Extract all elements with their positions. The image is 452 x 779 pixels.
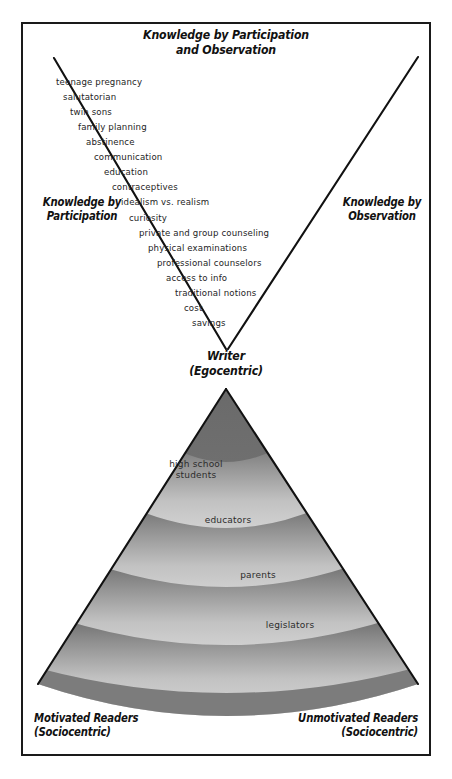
- audience-band-label-line1: parents: [240, 570, 276, 580]
- audience-band-label: educators: [182, 515, 274, 526]
- concept-list: teenage pregnancysalutatoriantwin sonsfa…: [0, 78, 452, 308]
- figure-canvas: Knowledge by Participation and Observati…: [0, 0, 452, 779]
- concept-item: education: [104, 168, 148, 177]
- label-writer-egocentric: Writer (Egocentric): [173, 349, 279, 379]
- concept-item: teenage pregnancy: [56, 78, 142, 87]
- audience-band-label: legislators: [244, 620, 336, 631]
- concept-item: curiosity: [129, 214, 167, 223]
- label-unmotivated-line1: Unmotivated Readers: [298, 711, 418, 725]
- label-writer-line2: (Egocentric): [173, 364, 279, 379]
- concept-item: access to info: [166, 274, 227, 283]
- concept-item: savings: [192, 319, 226, 328]
- concept-item: communication: [94, 153, 162, 162]
- label-unmotivated-readers: Unmotivated Readers (Sociocentric): [267, 712, 418, 739]
- figure-title-line1: Knowledge by Participation: [143, 27, 309, 42]
- concept-item: cost: [184, 304, 202, 313]
- audience-band-label-line2: students: [150, 470, 242, 481]
- label-motivated-line1: Motivated Readers: [34, 711, 138, 725]
- label-motivated-readers: Motivated Readers (Sociocentric): [34, 712, 192, 739]
- audience-band-label: parents: [212, 570, 304, 581]
- figure-title-line2: and Observation: [27, 43, 425, 58]
- concept-item: private and group counseling: [139, 229, 269, 238]
- label-writer-line1: Writer: [207, 348, 245, 363]
- concept-item: contraceptives: [112, 183, 178, 192]
- label-unmotivated-line2: (Sociocentric): [267, 726, 418, 740]
- figure-title: Knowledge by Participation and Observati…: [27, 28, 425, 58]
- concept-item: twin sons: [70, 108, 112, 117]
- concept-item: salutatorian: [63, 93, 116, 102]
- audience-band-label: high schoolstudents: [150, 459, 242, 482]
- concept-item: idealism vs. realism: [121, 198, 209, 207]
- audience-band-label-line1: educators: [205, 515, 252, 525]
- concept-item: traditional notions: [175, 289, 256, 298]
- concept-item: family planning: [78, 123, 147, 132]
- audience-band-label-line1: legislators: [266, 620, 315, 630]
- audience-band-label-line1: high school: [169, 459, 223, 469]
- label-motivated-line2: (Sociocentric): [34, 726, 192, 740]
- concept-item: professional counselors: [157, 259, 262, 268]
- concept-item: abstinence: [86, 138, 135, 147]
- concept-item: physical examinations: [148, 244, 247, 253]
